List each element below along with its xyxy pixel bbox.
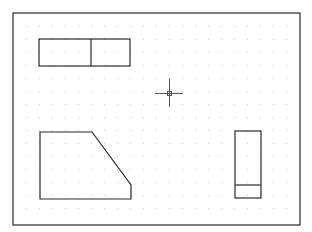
drawing-canvas[interactable]: [0, 0, 312, 232]
canvas-background: [0, 0, 312, 232]
